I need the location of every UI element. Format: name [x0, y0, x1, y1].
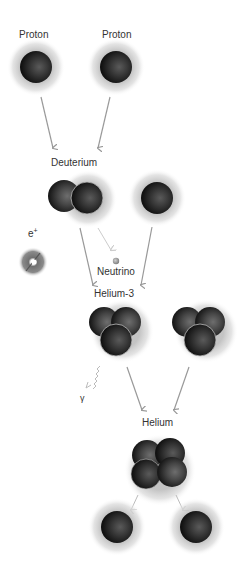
- arrow-proton-left: [41, 97, 53, 148]
- arrow-he3-right-to-helium: [174, 367, 189, 410]
- neutrino-icon: [113, 258, 119, 264]
- positron-icon: [18, 247, 48, 277]
- arrow-proton-to-he3: [141, 227, 152, 285]
- gamma-arrowhead: [86, 382, 91, 388]
- label-proton-right: Proton: [102, 29, 131, 40]
- arrow-deuterium-to-he3: [80, 228, 93, 285]
- label-helium: Helium: [142, 417, 173, 428]
- proton-third: [128, 169, 186, 227]
- arrow-neutrino: [98, 228, 111, 250]
- label-proton-left: Proton: [19, 29, 48, 40]
- arrow-proton-right: [98, 97, 110, 148]
- label-positron: e+: [28, 227, 38, 239]
- label-gamma: γ: [80, 393, 85, 403]
- label-deuterium: Deuterium: [51, 157, 97, 168]
- proton-left: [7, 38, 65, 96]
- deuterium-nucleus: [48, 170, 117, 228]
- arrow-he3-left-to-helium: [127, 367, 142, 410]
- positron-charge: +: [34, 227, 38, 234]
- emitted-proton-right: [167, 498, 225, 556]
- emitted-proton-left: [88, 498, 146, 556]
- gamma-ray-icon: [93, 366, 100, 389]
- label-helium3: Helium-3: [94, 288, 134, 299]
- label-neutrino: Neutrino: [97, 266, 135, 277]
- helium3-nucleus-left: [89, 299, 154, 363]
- helium3-nucleus-right: [172, 299, 238, 363]
- helium4-nucleus: [124, 434, 196, 506]
- proton-right: [87, 38, 145, 96]
